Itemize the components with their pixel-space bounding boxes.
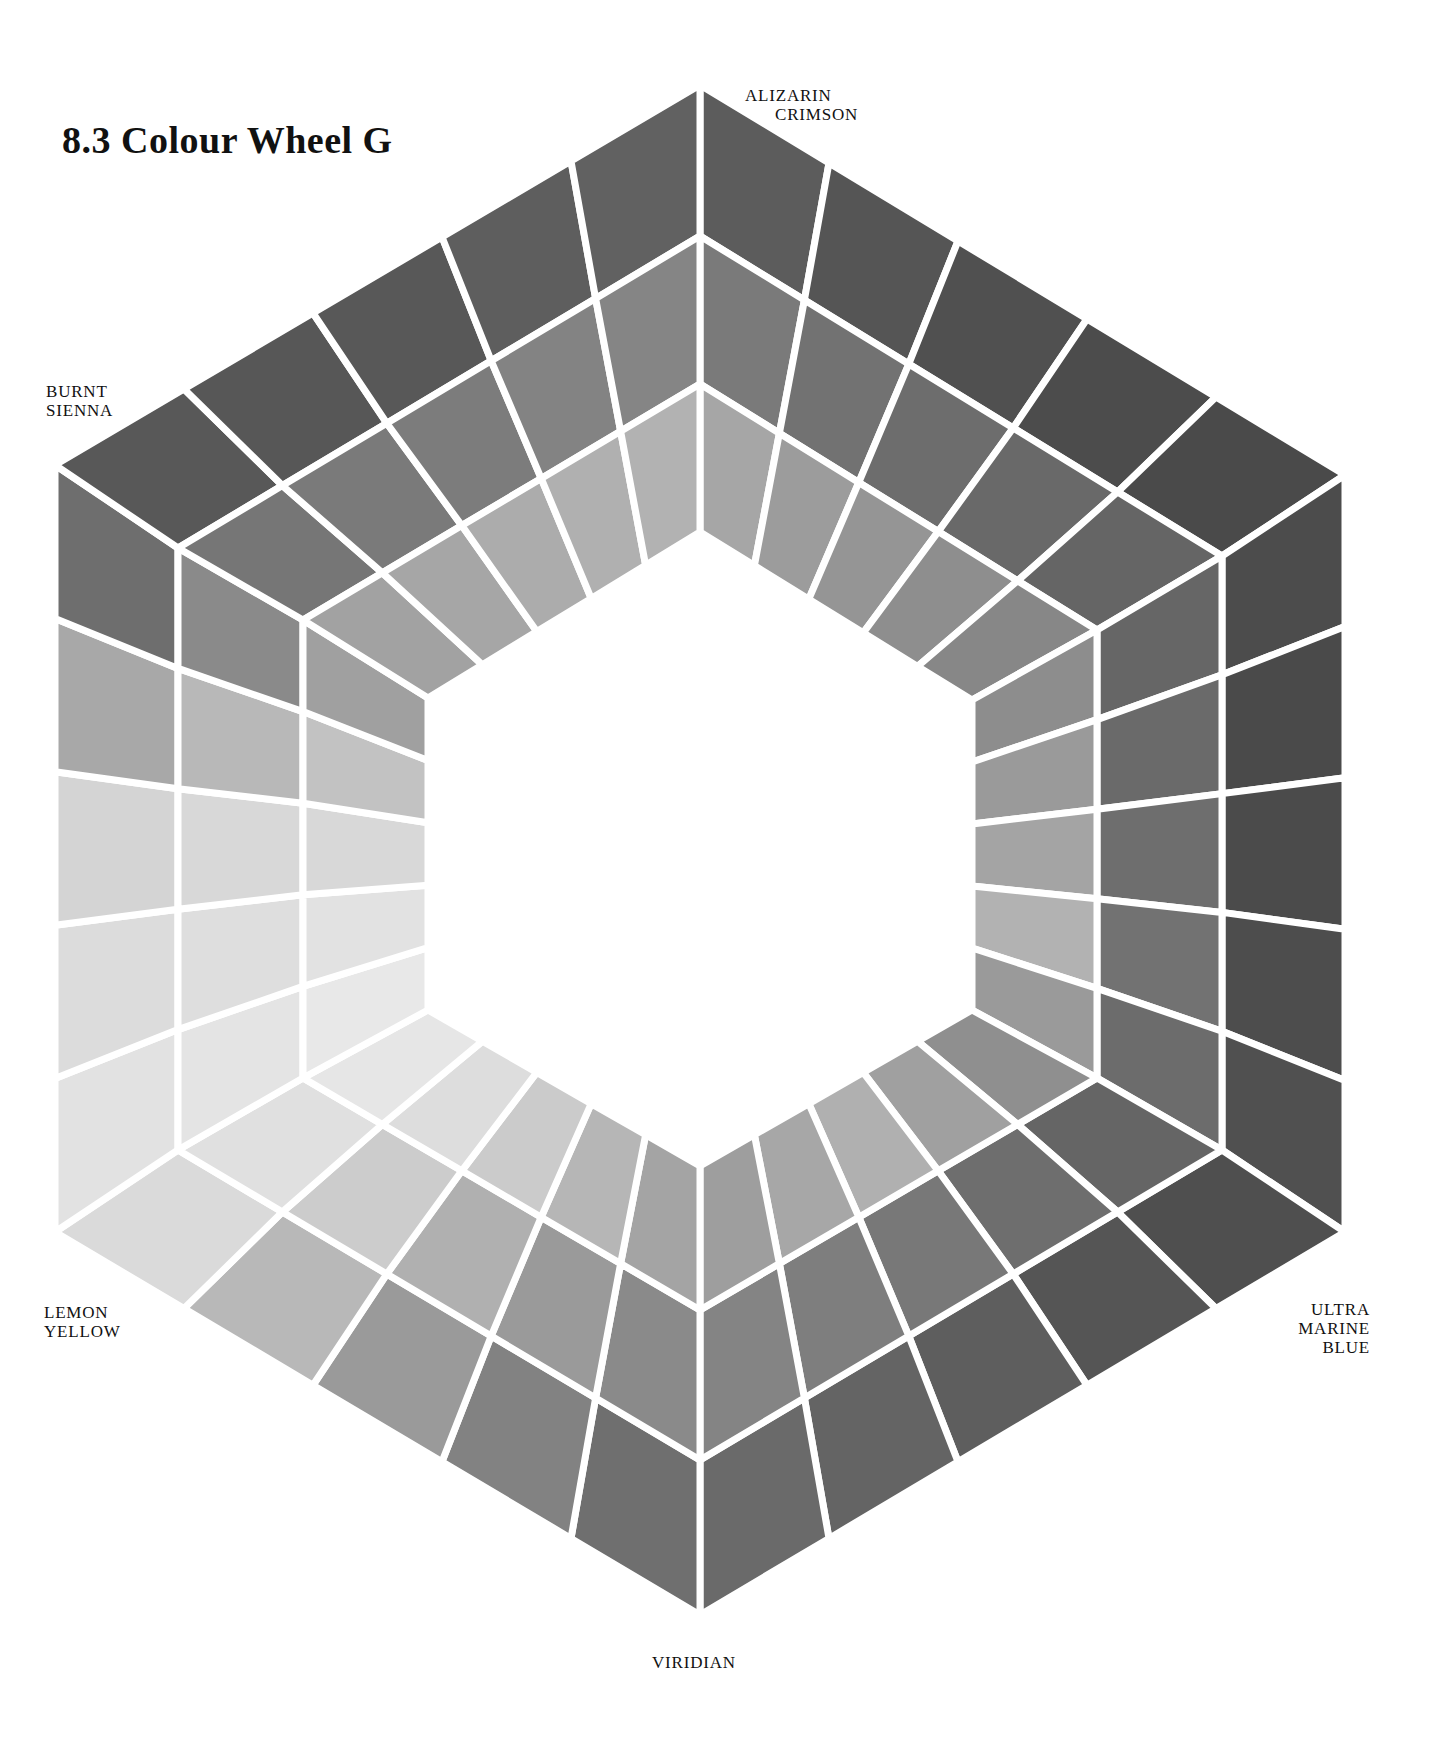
colour-tile	[55, 772, 178, 925]
colour-wheel-hexagon	[0, 0, 1448, 1754]
label-lemon-yellow: LEMON YELLOW	[44, 1303, 121, 1341]
colour-tile	[1097, 794, 1222, 913]
label-burnt-sienna: BURNT SIENNA	[46, 382, 113, 420]
label-ultramarine-blue: ULTRA MARINE BLUE	[1298, 1300, 1370, 1357]
label-alizarin-crimson: ALIZARIN CRIMSON	[745, 86, 858, 124]
colour-tile	[178, 789, 303, 909]
wheel-tiles	[55, 85, 1345, 1615]
colour-tile	[1222, 778, 1345, 929]
label-viridian: VIRIDIAN	[652, 1653, 736, 1672]
